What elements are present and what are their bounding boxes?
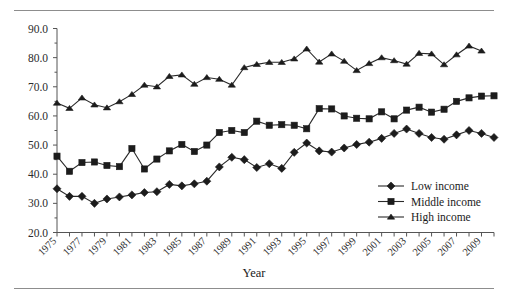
data-point-diamond [340,144,348,152]
data-point-diamond [53,185,61,193]
data-point-square [354,115,360,121]
data-point-square [179,141,185,147]
data-point-square [129,145,135,151]
data-point-diamond [303,139,311,147]
data-point-square [154,156,160,162]
data-point-square [141,166,147,172]
data-point-square [254,118,260,124]
data-point-square [91,159,97,165]
data-point-square [388,198,394,204]
data-point-diamond [153,188,161,196]
data-point-square [391,116,397,122]
data-point-square [441,106,447,112]
data-point-diamond [378,134,386,142]
data-point-square [341,113,347,119]
data-point-diamond [90,199,98,207]
x-tick-label: 2005 [410,235,433,258]
y-tick-label: 30.0 [28,197,48,209]
data-point-square [291,122,297,128]
chart-area: 20.030.040.050.060.070.080.090.0 1975197… [0,0,508,297]
x-axis-tick-labels: 1975197719791981198319851987198919911993… [36,235,483,258]
data-point-diamond [365,138,373,146]
data-point-diamond [240,156,248,164]
x-tick-label: 1991 [236,235,259,258]
data-point-diamond [140,189,148,197]
data-point-diamond [390,129,398,137]
data-point-square [54,153,60,159]
data-point-square [216,129,222,135]
data-point-triangle [78,95,85,100]
x-tick-label: 2009 [460,235,483,258]
data-point-diamond [265,160,273,168]
data-point-square [266,122,272,128]
line-chart: 20.030.040.050.060.070.080.090.0 1975197… [0,0,508,297]
y-tick-label: 80.0 [28,52,48,64]
legend-item-middle-income: Middle income [378,196,481,208]
x-tick-label: 1989 [211,235,234,258]
x-tick-label: 1997 [310,235,333,258]
x-tick-label: 2007 [435,235,458,258]
data-point-diamond [353,140,361,148]
data-point-triangle [91,102,98,107]
x-tick-label: 1987 [186,235,209,258]
data-point-square [116,164,122,170]
data-point-diamond [465,126,473,134]
data-point-square [304,126,310,132]
data-point-square [279,122,285,128]
data-point-diamond [428,133,436,141]
data-point-diamond [453,131,461,139]
data-point-square [66,168,72,174]
y-tick-label: 50.0 [28,139,48,151]
data-point-diamond [165,180,173,188]
data-point-square [166,148,172,154]
x-tick-label: 1981 [111,235,134,258]
data-point-square [104,162,110,168]
x-tick-label: 1979 [86,235,109,258]
data-point-diamond [387,182,395,190]
data-point-diamond [403,125,411,133]
data-point-diamond [103,195,111,203]
data-point-square [453,98,459,104]
data-point-square [379,109,385,115]
data-point-diamond [178,182,186,190]
data-point-diamond [477,129,485,137]
x-tick-label: 1985 [161,235,184,258]
y-tick-label: 60.0 [28,110,48,122]
data-point-square [329,106,335,112]
data-point-square [366,116,372,122]
legend-label: Low income [411,180,469,192]
series-line [57,96,494,171]
x-tick-label: 1999 [335,235,358,258]
data-point-triangle [328,51,335,56]
data-point-square [478,93,484,99]
data-point-diamond [115,193,123,201]
series-high-income [53,43,485,110]
data-point-square [191,148,197,154]
data-point-triangle [365,61,372,66]
data-point-triangle [341,58,348,63]
data-point-triangle [141,82,148,87]
data-point-triangle [465,43,472,48]
y-tick-label: 40.0 [28,168,48,180]
data-point-square [229,127,235,133]
data-point-diamond [415,129,423,137]
data-point-diamond [190,180,198,188]
x-tick-label: 1975 [36,235,59,258]
data-point-diamond [128,191,136,199]
data-point-square [204,142,210,148]
data-point-triangle [178,72,185,77]
x-axis-title: Year [242,266,266,280]
data-point-triangle [478,48,485,53]
data-point-diamond [65,192,73,200]
legend: Low incomeMiddle incomeHigh income [378,180,481,224]
data-point-triangle [378,55,385,60]
y-axis-ticks [53,29,57,233]
x-tick-label: 1977 [61,235,84,258]
x-tick-label: 2001 [360,235,383,258]
figure: 20.030.040.050.060.070.080.090.0 1975197… [0,0,508,297]
data-point-diamond [490,133,498,141]
data-point-diamond [253,163,261,171]
data-point-triangle [116,99,123,104]
data-point-square [416,104,422,110]
data-point-square [404,107,410,113]
